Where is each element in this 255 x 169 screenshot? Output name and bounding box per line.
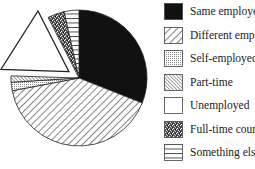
legend-swatch <box>164 50 183 67</box>
legend-swatch <box>164 74 183 91</box>
legend-label: Part-time <box>190 76 233 88</box>
legend-label: Different employer <box>190 29 255 41</box>
legend-swatch <box>164 97 183 114</box>
pie-chart <box>0 0 150 169</box>
legend-swatch <box>164 3 183 20</box>
legend-label: Unemployed <box>190 99 249 111</box>
legend-label: Something else <box>190 146 255 158</box>
legend-swatch <box>164 144 183 161</box>
legend-swatch <box>164 121 183 138</box>
legend-label: Same employer <box>190 5 255 17</box>
legend-swatch <box>164 27 183 44</box>
legend-label: Self-employed <box>190 52 255 64</box>
legend-label: Full-time course <box>190 123 255 135</box>
